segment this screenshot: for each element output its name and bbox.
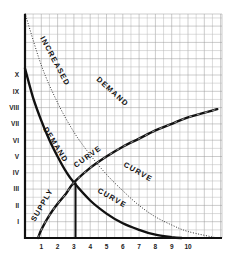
x-tick-label: 7	[137, 243, 141, 250]
supply-curve	[38, 109, 217, 238]
x-tick-label: 2	[56, 243, 60, 250]
x-tick-label: 6	[121, 243, 125, 250]
y-tick-label: I	[17, 218, 19, 225]
supply-curve-hatch	[38, 109, 217, 238]
x-tick-labels: 12345678910	[40, 243, 193, 250]
x-tick-label: 9	[170, 243, 174, 250]
demand-curve	[25, 69, 182, 239]
y-tick-label: III	[14, 185, 20, 192]
y-tick-label: IV	[13, 169, 20, 176]
y-tick-labels: IIIIIIIVVVIVIIVIIIIXX	[9, 71, 19, 225]
label-curve-upper: CURVE	[122, 160, 154, 184]
y-tick-label: X	[15, 71, 20, 78]
x-tick-label: 8	[154, 243, 158, 250]
x-tick-label: 3	[72, 243, 76, 250]
x-tick-label: 10	[185, 243, 193, 250]
x-tick-label: 1	[40, 243, 44, 250]
y-tick-label: VI	[13, 137, 19, 144]
y-tick-label: VIII	[9, 104, 19, 111]
label-demand-upper: DEMAND	[95, 75, 131, 109]
y-tick-label: IX	[13, 88, 20, 95]
label-curve-lower: CURVE	[96, 186, 128, 210]
y-tick-label: II	[15, 202, 19, 209]
x-tick-label: 4	[88, 243, 92, 250]
x-tick-label: 5	[105, 243, 109, 250]
y-tick-label: V	[15, 153, 20, 160]
supply-demand-chart: 12345678910 IIIIIIIVVVIVIIVIIIIXX INCREA…	[0, 0, 233, 254]
y-tick-label: VII	[11, 120, 19, 127]
label-supply: SUPPLY	[29, 187, 55, 223]
